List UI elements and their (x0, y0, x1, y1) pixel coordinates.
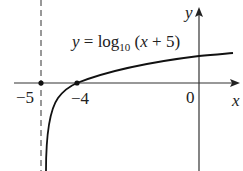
eq-y: y (72, 32, 80, 51)
equation-label: y = log10 (x + 5) (72, 33, 180, 53)
tick-label-0: 0 (186, 89, 195, 106)
eq-sub: 10 (119, 41, 130, 53)
log-curve (46, 53, 233, 171)
x-axis-label: x (232, 92, 240, 109)
point-neg4 (74, 80, 79, 85)
graph-canvas (0, 0, 243, 171)
eq-paren: ( (130, 32, 140, 51)
y-axis-label: y (185, 4, 193, 21)
eq-log: = log (80, 32, 120, 51)
point-neg5 (38, 80, 43, 85)
eq-rest: + 5) (148, 32, 180, 51)
tick-label-neg4: −4 (71, 90, 89, 107)
eq-x: x (140, 32, 148, 51)
tick-label-neg5: −5 (16, 89, 34, 106)
